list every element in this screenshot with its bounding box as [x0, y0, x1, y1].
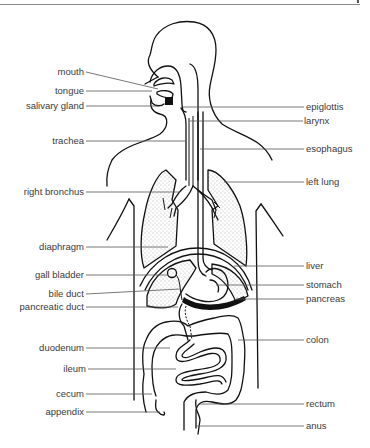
label-right-bronchus: right bronchus: [24, 186, 84, 197]
label-left-lung: left lung: [306, 176, 339, 187]
label-liver: liver: [306, 260, 323, 271]
label-appendix: appendix: [45, 406, 84, 417]
oral-cavity: [150, 64, 198, 180]
label-duodenum: duodenum: [39, 342, 84, 353]
label-pancreas: pancreas: [306, 293, 345, 304]
body-outline: [107, 22, 283, 400]
lungs: [141, 170, 247, 268]
label-pancreatic-duct: pancreatic duct: [20, 301, 84, 312]
label-rectum: rectum: [306, 398, 335, 409]
label-stomach: stomach: [306, 279, 342, 290]
label-mouth: mouth: [58, 66, 84, 77]
label-larynx: larynx: [304, 115, 329, 126]
label-esophagus: esophagus: [306, 143, 352, 154]
label-colon: colon: [306, 334, 329, 345]
label-salivary-gland: salivary gland: [26, 100, 84, 111]
label-gall-bladder: gall bladder: [35, 269, 84, 280]
label-diaphragm: diaphragm: [39, 241, 84, 252]
label-bile-duct: bile duct: [49, 288, 84, 299]
digestive-system-illustration: [0, 0, 370, 448]
label-trachea: trachea: [52, 135, 84, 146]
label-cecum: cecum: [56, 388, 84, 399]
salivary-gland-shape: [165, 97, 173, 105]
label-anus: anus: [306, 420, 327, 431]
label-tongue: tongue: [55, 85, 84, 96]
label-ileum: ileum: [63, 363, 86, 374]
label-epiglottis: epiglottis: [306, 101, 344, 112]
